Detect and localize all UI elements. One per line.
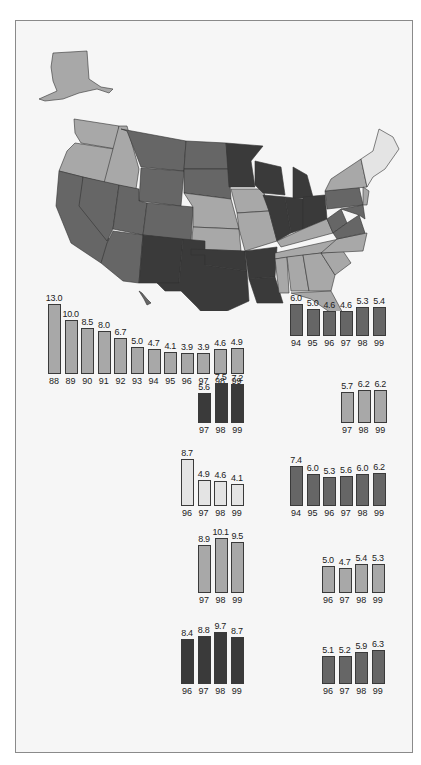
figure-frame: 13.08810.0898.5908.0916.7925.0934.7944.1… — [15, 20, 413, 753]
bar — [215, 383, 228, 424]
bar — [231, 384, 244, 423]
bar-chart-c6: 7.4946.0955.3965.6976.0986.299 — [290, 454, 396, 518]
state-arkansas — [245, 247, 277, 279]
bar — [340, 311, 353, 336]
year-label: 99 — [367, 686, 389, 696]
year-label: 99 — [226, 508, 248, 518]
bar-chart-c8: 5.0964.7975.4985.399 — [322, 552, 394, 605]
year-label: 99 — [226, 686, 248, 696]
value-label: 8.7 — [176, 448, 198, 458]
bar-chart-c7: 8.99710.1989.599 — [198, 526, 254, 605]
state-alaska — [39, 51, 113, 101]
bar — [341, 392, 354, 423]
value-label: 8.7 — [226, 626, 248, 636]
bar — [372, 564, 385, 593]
value-label: 9.5 — [226, 531, 248, 541]
bar-chart-c10: 5.1965.2975.9986.399 — [322, 638, 394, 696]
bar — [181, 459, 194, 506]
bar — [323, 311, 336, 336]
bar-chart-c5: 8.7964.9974.6984.199 — [181, 447, 253, 518]
value-label: 6.2 — [368, 462, 390, 472]
bar — [340, 476, 353, 506]
bar — [164, 352, 177, 374]
state-new-jersey — [363, 187, 369, 205]
state-new-england — [361, 129, 399, 187]
value-label: 7.2 — [226, 373, 248, 383]
state-new-mexico — [139, 235, 183, 283]
bar — [231, 637, 244, 684]
bar — [181, 353, 194, 374]
value-label: 6.3 — [367, 639, 389, 649]
bar — [290, 304, 303, 336]
bar — [356, 474, 369, 506]
bar — [307, 309, 320, 336]
bar — [323, 477, 336, 506]
state-north-dakota — [184, 141, 229, 169]
bar — [373, 307, 386, 336]
bar — [214, 632, 227, 684]
bar-chart-c4: 5.7976.2986.299 — [341, 378, 397, 435]
bar — [98, 331, 111, 374]
value-label: 5.4 — [368, 296, 390, 306]
bar — [322, 656, 335, 684]
value-label: 6.2 — [369, 379, 391, 389]
bar — [358, 390, 371, 423]
bar — [231, 484, 244, 506]
state-wyoming — [139, 168, 184, 206]
bar — [215, 538, 228, 593]
bar — [231, 542, 244, 593]
bar — [81, 328, 94, 374]
bar-chart-c2: 6.0945.0954.6964.6975.3985.499 — [290, 292, 396, 348]
year-label: 99 — [367, 595, 389, 605]
bar — [198, 545, 211, 593]
bar — [65, 320, 78, 374]
bar — [356, 307, 369, 336]
us-map — [16, 21, 414, 311]
bar — [307, 474, 320, 506]
bar — [355, 564, 368, 593]
bar — [198, 636, 211, 684]
bar — [131, 347, 144, 374]
bar — [355, 652, 368, 684]
bar — [214, 481, 227, 506]
bar — [373, 473, 386, 506]
state-wisconsin — [255, 161, 285, 195]
bar — [198, 393, 211, 423]
year-label: 99 — [368, 338, 390, 348]
value-label: 4.9 — [226, 337, 248, 347]
year-label: 99 — [226, 595, 248, 605]
state-colorado — [143, 203, 193, 241]
bar — [181, 639, 194, 684]
value-label: 5.3 — [367, 553, 389, 563]
state-michigan — [293, 167, 313, 199]
bar — [339, 568, 352, 593]
value-label: 13.0 — [43, 293, 65, 303]
bar — [339, 656, 352, 684]
bar — [148, 349, 161, 374]
bar — [374, 390, 387, 423]
bar — [322, 566, 335, 593]
value-label: 5.6 — [193, 382, 215, 392]
year-label: 99 — [369, 425, 391, 435]
year-label: 99 — [368, 508, 390, 518]
state-new-york — [325, 159, 367, 191]
bar-chart-c3: 5.6977.5987.299 — [198, 371, 254, 436]
bar — [372, 650, 385, 684]
value-label: 4.1 — [226, 473, 248, 483]
bar-chart-c9: 8.4968.8979.7988.799 — [181, 620, 253, 696]
year-label: 99 — [226, 425, 248, 435]
bar — [198, 480, 211, 506]
